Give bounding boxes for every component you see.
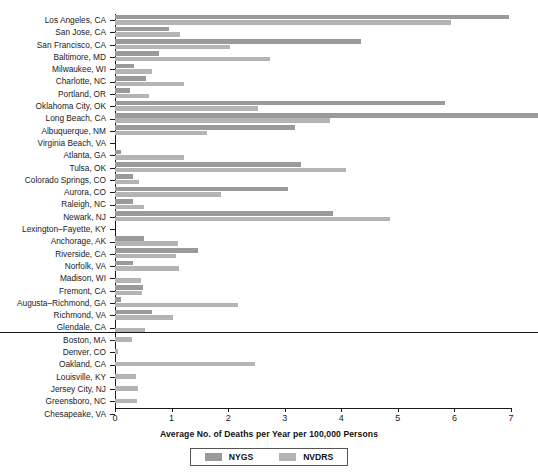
bar-group bbox=[115, 112, 515, 124]
bar-nvdrs bbox=[115, 205, 144, 210]
y-axis-label: Jersey City, NJ bbox=[0, 383, 112, 395]
bar-nvdrs bbox=[115, 180, 139, 185]
bar-group bbox=[115, 76, 515, 88]
y-axis-label: Milwaukee, WI bbox=[0, 63, 112, 75]
bar-nvdrs bbox=[115, 131, 207, 136]
legend-item-nvdrs: NVDRS bbox=[279, 452, 333, 462]
bar-group bbox=[115, 39, 515, 51]
bar-nygs bbox=[115, 248, 198, 253]
y-axis-label: Long Beach, CA bbox=[0, 112, 112, 124]
bar-group bbox=[115, 125, 515, 137]
x-axis-tick bbox=[285, 408, 286, 412]
bar-nvdrs bbox=[115, 168, 346, 173]
bar-nvdrs bbox=[115, 315, 173, 320]
legend-label-nvdrs: NVDRS bbox=[303, 452, 333, 462]
bar-group bbox=[115, 149, 515, 161]
bar-nvdrs bbox=[115, 192, 221, 197]
y-axis-label: San Francisco, CA bbox=[0, 39, 112, 51]
y-axis-label: Charlotte, NC bbox=[0, 75, 112, 87]
bar-group bbox=[115, 272, 515, 284]
bar-nvdrs bbox=[115, 155, 184, 160]
y-axis-tick bbox=[110, 69, 115, 70]
x-axis-line bbox=[115, 408, 511, 409]
y-axis-tick bbox=[110, 180, 115, 181]
y-axis-label: Greensboro, NC bbox=[0, 395, 112, 407]
bar-group bbox=[115, 26, 515, 38]
bar-group bbox=[115, 174, 515, 186]
legend: NYGS NVDRS bbox=[0, 448, 538, 466]
bar-group bbox=[115, 100, 515, 112]
y-axis-tick bbox=[110, 365, 115, 366]
bar-group bbox=[115, 346, 515, 358]
bar-nvdrs bbox=[115, 374, 136, 379]
bar-nygs bbox=[115, 39, 361, 44]
bar-nvdrs bbox=[115, 69, 152, 74]
bar-nvdrs bbox=[115, 106, 258, 111]
y-axis-tick bbox=[110, 401, 115, 402]
y-axis-tick bbox=[110, 106, 115, 107]
bar-nvdrs bbox=[115, 20, 451, 25]
y-axis-label: Colorado Springs, CO bbox=[0, 174, 112, 186]
x-axis-tick-label: 6 bbox=[452, 413, 457, 423]
y-axis-tick bbox=[110, 32, 115, 33]
y-axis-label: Atlanta, GA bbox=[0, 149, 112, 161]
y-axis-label: Louisville, KY bbox=[0, 371, 112, 383]
bar-group bbox=[115, 371, 515, 383]
y-axis-label: Raleigh, NC bbox=[0, 198, 112, 210]
bar-nygs bbox=[115, 187, 288, 192]
bar-nygs bbox=[115, 285, 143, 290]
y-axis-label: San Jose, CA bbox=[0, 26, 112, 38]
y-axis-tick bbox=[110, 266, 115, 267]
bar-nvdrs bbox=[115, 399, 137, 404]
bar-nygs bbox=[115, 113, 538, 118]
bar-group bbox=[115, 88, 515, 100]
y-axis-label: Augusta–Richmond, GA bbox=[0, 297, 112, 309]
legend-label-nygs: NYGS bbox=[229, 452, 253, 462]
bar-group bbox=[115, 285, 515, 297]
y-axis-label: Riverside, CA bbox=[0, 248, 112, 260]
y-axis-label: Portland, OR bbox=[0, 88, 112, 100]
bar-group bbox=[115, 137, 515, 149]
x-axis-title: Average No. of Deaths per Year per 100,0… bbox=[0, 429, 538, 439]
x-axis-tick bbox=[172, 408, 173, 412]
bar-nygs bbox=[115, 211, 333, 216]
bar-nvdrs bbox=[115, 362, 255, 367]
y-axis-label: Norfolk, VA bbox=[0, 260, 112, 272]
y-axis-label: Albuquerque, NM bbox=[0, 125, 112, 137]
x-axis-tick-label: 5 bbox=[395, 413, 400, 423]
bar-group bbox=[115, 334, 515, 346]
legend-item-nygs: NYGS bbox=[205, 452, 253, 462]
bar-nygs bbox=[115, 261, 133, 266]
y-axis-tick bbox=[110, 20, 115, 21]
y-axis-tick bbox=[110, 45, 115, 46]
bar-group bbox=[115, 14, 515, 26]
bar-nygs bbox=[115, 199, 133, 204]
bar-group bbox=[115, 248, 515, 260]
x-axis-tick-label: 4 bbox=[339, 413, 344, 423]
y-axis-tick bbox=[110, 155, 115, 156]
figure: Los Angeles, CASan Jose, CASan Francisco… bbox=[0, 0, 538, 474]
y-axis-tick bbox=[110, 389, 115, 390]
bar-group bbox=[115, 383, 515, 395]
bar-nvdrs bbox=[115, 278, 141, 283]
legend-box: NYGS NVDRS bbox=[190, 448, 348, 466]
y-axis-label: Oklahoma City, OK bbox=[0, 100, 112, 112]
x-axis-tick bbox=[398, 408, 399, 412]
bar-nygs bbox=[115, 236, 144, 241]
bar-group bbox=[115, 186, 515, 198]
y-axis-label: Tulsa, OK bbox=[0, 162, 112, 174]
y-axis-tick bbox=[110, 168, 115, 169]
bar-group bbox=[115, 260, 515, 272]
bar-nygs bbox=[115, 64, 134, 69]
x-axis-tick-label: 3 bbox=[282, 413, 287, 423]
bar-nygs bbox=[115, 297, 121, 302]
bar-nygs bbox=[115, 310, 152, 315]
y-axis-tick bbox=[110, 119, 115, 120]
x-axis-tick bbox=[511, 408, 512, 412]
y-axis-label: Madison, WI bbox=[0, 272, 112, 284]
y-axis-label: Denver, CO bbox=[0, 346, 112, 358]
y-axis-label: Anchorage, AK bbox=[0, 235, 112, 247]
bar-group bbox=[115, 297, 515, 309]
y-axis-tick bbox=[110, 352, 115, 353]
y-axis-label: Oakland, CA bbox=[0, 358, 112, 370]
